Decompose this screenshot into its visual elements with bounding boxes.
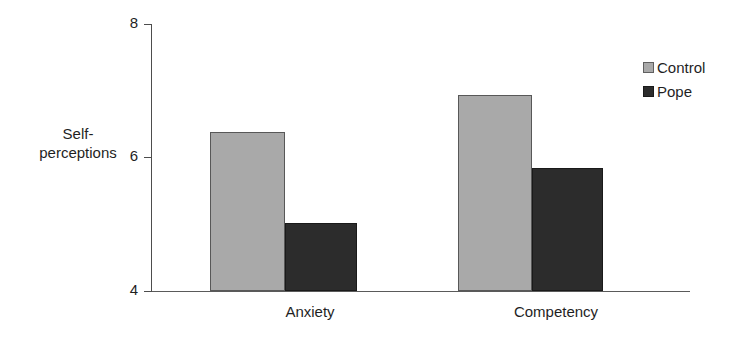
y-tick-label-6: 6	[100, 147, 138, 164]
y-axis-title-line-1: Self-	[22, 124, 134, 143]
x-axis-line	[148, 291, 690, 292]
y-tick-label-4-wrap: 4	[100, 291, 138, 292]
y-tick-label-4: 4	[100, 281, 138, 298]
legend-item-control: Control	[643, 57, 731, 77]
legend-item-pope: Pope	[643, 81, 731, 101]
legend-swatch-pope-icon	[643, 86, 654, 97]
y-tick-label-6-wrap: 6	[100, 157, 138, 158]
y-tick-mark-4	[144, 291, 152, 292]
legend-label-pope: Pope	[657, 84, 692, 99]
bar-competency-control	[458, 95, 532, 291]
y-tick-mark-8	[144, 24, 152, 25]
bar-anxiety-control	[210, 132, 285, 291]
bar-anxiety-pope	[285, 223, 357, 291]
y-tick-label-8: 8	[100, 14, 138, 31]
bar-chart-figure: Self- perceptions 8 6 4 Anxiety Competen…	[0, 0, 731, 347]
legend-swatch-control-icon	[643, 62, 654, 73]
x-category-label-competency: Competency	[486, 303, 626, 320]
plot-area	[152, 24, 690, 291]
x-category-label-anxiety: Anxiety	[250, 303, 370, 320]
y-tick-mark-6	[144, 157, 152, 158]
y-tick-label-8-wrap: 8	[100, 24, 138, 25]
chart-legend: Control Pope	[643, 57, 731, 105]
bar-competency-pope	[532, 168, 603, 291]
legend-label-control: Control	[657, 60, 705, 75]
